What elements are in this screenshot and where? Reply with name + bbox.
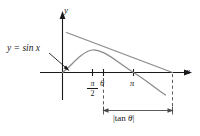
- tick-label-pi: π: [130, 79, 134, 88]
- pi-half-numerator: π: [86, 79, 99, 88]
- x-axis-label: x: [186, 67, 190, 76]
- tan-function-name: tan: [115, 113, 126, 123]
- sine-tangent-figure: y = sin x y x π 2 θ π |tan θ|: [0, 0, 200, 136]
- curve-equation-label: y = sin x: [7, 44, 40, 54]
- axes-group: [40, 11, 192, 100]
- figure-canvas: [0, 0, 200, 136]
- pi-half-denominator: 2: [86, 89, 99, 98]
- abs-bar-close: |: [132, 113, 134, 123]
- tangent-line: [67, 33, 173, 73]
- y-axis-label: y: [64, 6, 68, 15]
- leader-line: [49, 53, 68, 69]
- tan-measure-label: |tan θ|: [113, 114, 134, 123]
- tick-label-theta: θ: [100, 79, 104, 88]
- tick-label-pi-over-two: π 2: [86, 79, 99, 98]
- curve-label-leader: [49, 53, 70, 71]
